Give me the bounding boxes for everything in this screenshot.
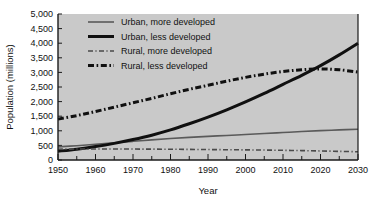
- y-tick-label: 1,500: [30, 111, 53, 121]
- x-tick-label: 1950: [48, 165, 68, 175]
- y-tick-label: 4,500: [30, 24, 53, 34]
- y-tick-label: 3,000: [30, 68, 53, 78]
- y-tick-label: 4,000: [30, 38, 53, 48]
- population-line-chart: 05001,0001,5002,0002,5003,0003,5004,0004…: [0, 0, 374, 211]
- y-tick-label: 5,000: [30, 9, 53, 19]
- y-tick-label: 2,500: [30, 82, 53, 92]
- y-tick-label: 1,000: [30, 126, 53, 136]
- x-tick-label: 1970: [123, 165, 143, 175]
- x-tick-label: 2020: [310, 165, 330, 175]
- x-tick-label: 1960: [85, 165, 105, 175]
- legend-label: Urban, less developed: [121, 32, 211, 42]
- y-tick-label: 500: [38, 141, 53, 151]
- x-axis-ticks: 195019601970198019902000201020202030: [48, 154, 368, 175]
- x-tick-label: 2030: [348, 165, 368, 175]
- legend-label: Rural, more developed: [121, 46, 212, 56]
- x-axis-title: Year: [198, 185, 217, 196]
- x-tick-label: 2000: [235, 165, 255, 175]
- y-tick-label: 3,500: [30, 53, 53, 63]
- y-tick-label: 0: [48, 155, 53, 165]
- x-tick-label: 1980: [160, 165, 180, 175]
- y-tick-label: 2,000: [30, 97, 53, 107]
- x-tick-label: 1990: [198, 165, 218, 175]
- legend-label: Rural, less developed: [121, 61, 208, 71]
- chart-figure: 05001,0001,5002,0002,5003,0003,5004,0004…: [0, 0, 374, 211]
- x-tick-label: 2010: [273, 165, 293, 175]
- y-axis-title: Population (millions): [4, 44, 15, 130]
- legend-label: Urban, more developed: [121, 17, 215, 27]
